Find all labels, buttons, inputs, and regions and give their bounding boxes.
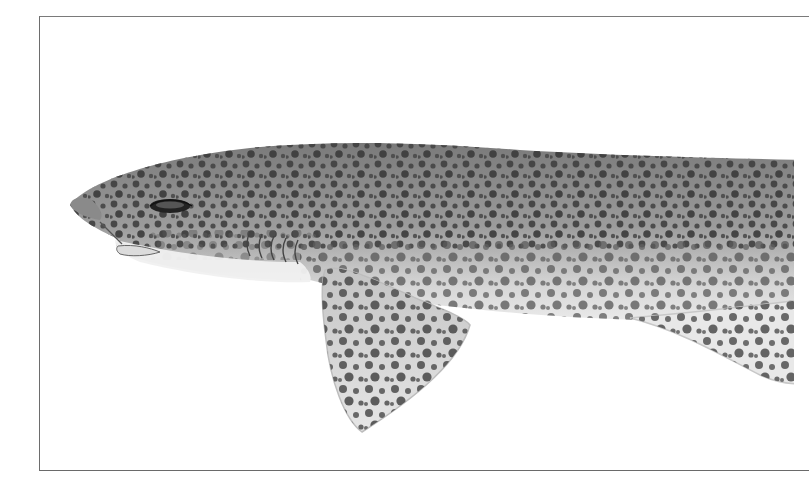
shark-body <box>60 140 794 330</box>
